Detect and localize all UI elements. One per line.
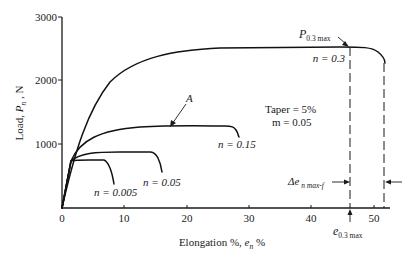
x-tick-label: 40 bbox=[306, 212, 318, 224]
label-taper: Taper = 5% bbox=[265, 103, 316, 115]
x-tick-label: 50 bbox=[369, 212, 381, 224]
label-A: A bbox=[185, 92, 193, 104]
arrowhead-delta-right bbox=[385, 180, 391, 185]
y-tick-label: 1000 bbox=[35, 138, 58, 150]
x-tick-label: 20 bbox=[182, 212, 194, 224]
curve-n-0.3 bbox=[62, 47, 385, 208]
label-delta-e: Δe n max-f bbox=[287, 175, 325, 190]
x-tick-label: 0 bbox=[59, 212, 65, 224]
label-n-0.005: n = 0.005 bbox=[94, 186, 138, 198]
arrowhead-e-max bbox=[348, 209, 353, 215]
y-tick-label: 3000 bbox=[35, 11, 58, 23]
curve-n-0.15 bbox=[62, 126, 239, 208]
load-elongation-chart: 3000 2000 1000 0 10 20 30 40 50 Load, Pn… bbox=[0, 0, 412, 258]
label-n-0.15: n = 0.15 bbox=[218, 138, 256, 150]
label-p-max: P0.3 max bbox=[298, 27, 331, 43]
label-n-0.3: n = 0.3 bbox=[313, 52, 346, 64]
label-m: m = 0.05 bbox=[272, 116, 312, 128]
label-n-0.05: n = 0.05 bbox=[143, 176, 181, 188]
y-tick-label: 2000 bbox=[35, 74, 58, 86]
label-e-max: e0.3 max bbox=[333, 224, 363, 240]
arrow-A bbox=[172, 104, 186, 124]
x-tick-label: 30 bbox=[244, 212, 256, 224]
arrowhead-delta-left bbox=[344, 180, 350, 185]
y-axis-label: Load, Pn , N bbox=[13, 86, 28, 141]
curve-n-0.005 bbox=[62, 160, 114, 208]
x-axis-label: Elongation %, en % bbox=[179, 236, 265, 251]
x-tick-label: 10 bbox=[119, 212, 131, 224]
